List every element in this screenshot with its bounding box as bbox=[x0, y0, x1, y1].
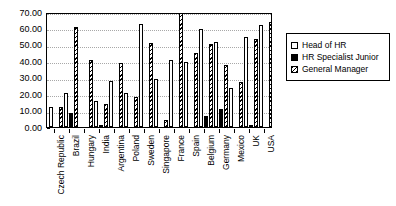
bar bbox=[249, 125, 253, 127]
x-tick-group: India bbox=[92, 129, 107, 203]
bar bbox=[164, 120, 168, 127]
x-tick-mark bbox=[99, 129, 100, 133]
x-tick-mark bbox=[159, 129, 160, 133]
y-tick-label: 50.00 bbox=[19, 41, 42, 50]
legend-item[interactable]: Head of HR bbox=[291, 40, 385, 50]
x-tick-group: Hungary bbox=[77, 129, 92, 203]
bar bbox=[49, 107, 53, 127]
x-tick-mark bbox=[69, 129, 70, 133]
y-tick-label: 20.00 bbox=[19, 91, 42, 100]
bar-group bbox=[93, 14, 108, 127]
bar bbox=[184, 62, 188, 127]
x-tick-mark bbox=[264, 129, 265, 133]
x-tick-mark bbox=[204, 129, 205, 133]
bar bbox=[199, 29, 203, 127]
x-tick-mark bbox=[129, 129, 130, 133]
y-tick-label: 60.00 bbox=[19, 25, 42, 34]
bar bbox=[254, 39, 258, 127]
bar bbox=[134, 97, 138, 127]
x-tick-group: Mexico bbox=[226, 129, 241, 203]
bar bbox=[179, 13, 183, 127]
bar bbox=[204, 116, 208, 128]
x-tick-group: Germany bbox=[211, 129, 226, 203]
bar bbox=[214, 42, 218, 127]
x-tick-mark bbox=[189, 129, 190, 133]
bar-group bbox=[123, 14, 138, 127]
x-tick-mark bbox=[249, 129, 250, 133]
bar bbox=[244, 37, 248, 127]
bar-group bbox=[108, 14, 123, 127]
bar bbox=[139, 24, 143, 127]
bar-group bbox=[258, 14, 272, 127]
x-tick-group: Argentina bbox=[107, 129, 122, 203]
legend-item[interactable]: HR Specialist Junior bbox=[291, 52, 385, 62]
x-tick-mark bbox=[219, 129, 220, 133]
bar-group bbox=[168, 14, 183, 127]
bar bbox=[74, 27, 78, 127]
filled-square-swatch bbox=[291, 54, 298, 61]
bar bbox=[169, 60, 173, 127]
bar bbox=[94, 101, 98, 127]
bar bbox=[154, 79, 158, 127]
bar-group bbox=[153, 14, 168, 127]
y-tick-label: 10.00 bbox=[19, 107, 42, 116]
bar-group bbox=[243, 14, 258, 127]
bar-group bbox=[63, 14, 78, 127]
y-tick-label: 30.00 bbox=[19, 74, 42, 83]
bar bbox=[259, 25, 263, 127]
legend-label: General Manager bbox=[302, 64, 368, 74]
bar-chart: 0.0010.0020.0030.0040.0050.0060.0070.00 … bbox=[0, 0, 396, 206]
bar bbox=[194, 53, 198, 127]
legend-label: HR Specialist Junior bbox=[302, 52, 379, 62]
x-tick-mark bbox=[174, 129, 175, 133]
x-tick-mark bbox=[114, 129, 115, 133]
bar bbox=[109, 81, 113, 127]
bar bbox=[124, 93, 128, 128]
legend-label: Head of HR bbox=[302, 40, 346, 50]
bar bbox=[269, 22, 273, 127]
x-tick-group: Sweden bbox=[137, 129, 152, 203]
bar-group bbox=[138, 14, 153, 127]
x-tick-group: France bbox=[167, 129, 182, 203]
y-tick-label: 70.00 bbox=[19, 9, 42, 18]
bar bbox=[89, 60, 93, 127]
x-axis: Czech RepublicBrazilHungaryIndiaArgentin… bbox=[46, 129, 272, 203]
x-tick-mark bbox=[144, 129, 145, 133]
x-tick-mark bbox=[234, 129, 235, 133]
hatched-square-swatch bbox=[291, 66, 298, 73]
bar bbox=[59, 107, 63, 127]
x-tick-mark bbox=[54, 129, 55, 133]
bars-layer bbox=[47, 14, 271, 127]
x-tick-group: UK bbox=[241, 129, 256, 203]
bar-group bbox=[228, 14, 243, 127]
x-tick-group: Belgium bbox=[196, 129, 211, 203]
bar-group bbox=[213, 14, 228, 127]
x-tick-group: Poland bbox=[122, 129, 137, 203]
bar-group bbox=[48, 14, 63, 127]
open-square-swatch bbox=[291, 42, 298, 49]
bar bbox=[69, 113, 73, 127]
bar-group bbox=[198, 14, 213, 127]
plot-area bbox=[46, 13, 272, 128]
y-tick-label: 40.00 bbox=[19, 58, 42, 67]
bar-group bbox=[78, 14, 93, 127]
x-tick-group: USA bbox=[256, 129, 271, 203]
legend-item[interactable]: General Manager bbox=[291, 64, 385, 74]
bar bbox=[219, 109, 223, 127]
bar bbox=[224, 65, 228, 127]
bar bbox=[119, 63, 123, 127]
y-axis: 0.0010.0020.0030.0040.0050.0060.0070.00 bbox=[4, 8, 42, 130]
x-tick-group: Spain bbox=[181, 129, 196, 203]
x-tick-mark bbox=[84, 129, 85, 133]
bar bbox=[64, 93, 68, 128]
x-tick-group: Singapore bbox=[152, 129, 167, 203]
x-tick-label: USA bbox=[267, 135, 276, 152]
bar bbox=[229, 88, 233, 127]
bar bbox=[104, 104, 108, 127]
bar-group bbox=[183, 14, 198, 127]
x-tick-group: Brazil bbox=[62, 129, 77, 203]
x-tick-group: Czech Republic bbox=[47, 129, 62, 203]
chart-legend: Head of HRHR Specialist JuniorGeneral Ma… bbox=[286, 33, 390, 81]
bar bbox=[209, 44, 213, 127]
bar bbox=[239, 82, 243, 127]
